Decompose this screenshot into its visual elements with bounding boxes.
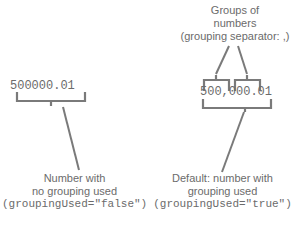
number-with-grouping: 500,000.01 [200, 86, 290, 99]
left-number-bracket [17, 92, 85, 106]
right-caption-line-2: grouping used [150, 185, 295, 198]
groups-annotation-line-1: Groups of [175, 4, 295, 17]
number-without-grouping: 500000.01 [10, 80, 95, 93]
left-caption-line-2: no grouping used [2, 185, 147, 198]
left-caption-line-1: Number with [2, 172, 147, 185]
group-leader-line-right [238, 46, 247, 74]
left-caption-code: (groupingUsed="false") [2, 198, 147, 211]
right-number-bracket [203, 99, 271, 112]
group-leader-line-left [216, 46, 229, 74]
right-example-caption: Default: number with grouping used (grou… [150, 172, 295, 211]
right-caption-line-1: Default: number with [150, 172, 295, 185]
left-example-caption: Number with no grouping used (groupingUs… [2, 172, 147, 211]
groups-annotation-label: Groups of numbers (grouping separator: ,… [175, 4, 295, 43]
right-leader-line [222, 112, 244, 172]
right-caption-code: (groupingUsed="true") [150, 198, 295, 211]
groups-annotation-line-2: numbers [175, 17, 295, 30]
left-leader-line [63, 107, 79, 170]
groups-annotation-line-3: (grouping separator: ,) [175, 30, 295, 43]
